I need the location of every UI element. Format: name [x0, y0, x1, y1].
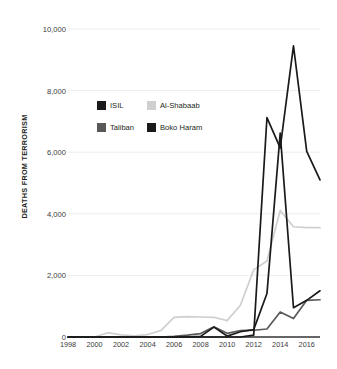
plot-area: [0, 0, 337, 369]
legend-swatch-boko-haram: [147, 123, 156, 132]
legend-label-taliban: Taliban: [110, 123, 134, 132]
x-tick-label: 2016: [299, 340, 315, 349]
series-line-al-shabaab: [68, 210, 320, 337]
series-line-taliban: [68, 300, 320, 337]
legend-label-al-shabaab: Al-Shabaab: [160, 101, 200, 110]
x-tick-label: 2012: [246, 340, 262, 349]
x-tick-label: 2008: [193, 340, 209, 349]
legend-item-isil: ISIL: [97, 101, 147, 110]
legend-item-al-shabaab: Al-Shabaab: [147, 101, 200, 110]
x-tick-label: 2010: [219, 340, 235, 349]
terrorism-deaths-line-chart: DEATHS FROM TERRORISM 02,0004,0006,0008,…: [0, 0, 337, 369]
legend-label-isil: ISIL: [110, 101, 124, 110]
x-tick-label: 2000: [86, 340, 102, 349]
x-tick-label: 2002: [113, 340, 129, 349]
legend-swatch-taliban: [97, 123, 106, 132]
legend-item-taliban: Taliban: [97, 123, 147, 132]
x-tick-label: 2004: [139, 340, 155, 349]
series-line-isil: [68, 46, 320, 337]
chart-legend: ISIL Al-Shabaab Taliban Boko Haram: [97, 100, 237, 144]
x-tick-label: 1998: [60, 340, 76, 349]
legend-row: ISIL Al-Shabaab: [97, 100, 237, 111]
legend-swatch-al-shabaab: [147, 101, 156, 110]
legend-swatch-isil: [97, 101, 106, 110]
legend-item-boko-haram: Boko Haram: [147, 123, 202, 132]
x-tick-label: 2006: [166, 340, 182, 349]
legend-row: Taliban Boko Haram: [97, 122, 237, 133]
legend-label-boko-haram: Boko Haram: [160, 123, 202, 132]
series-line-boko-haram: [68, 133, 320, 337]
x-axis-tick-labels: 1998200020022004200620082010201220142016: [0, 340, 337, 360]
x-tick-label: 2014: [272, 340, 288, 349]
